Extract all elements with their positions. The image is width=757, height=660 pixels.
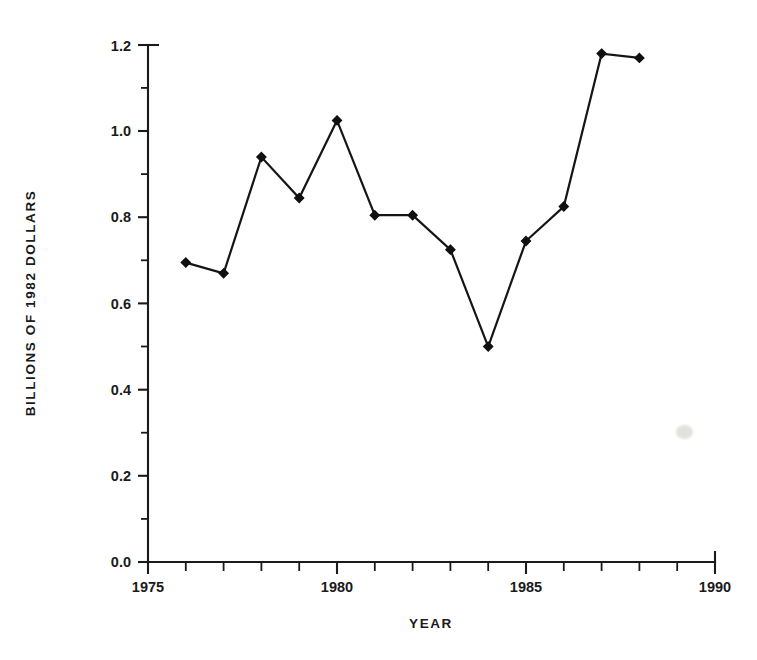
line-chart-canvas: 0.0 0.2 0.4 0.6 0.8 1.0 1.2 bbox=[0, 0, 757, 660]
y-tick-label: 0.8 bbox=[111, 209, 131, 225]
data-point bbox=[181, 258, 190, 267]
y-tick-label: 0.6 bbox=[111, 296, 131, 312]
x-tick-label: 1990 bbox=[699, 579, 731, 595]
data-point bbox=[597, 49, 606, 58]
y-tick-label: 1.0 bbox=[111, 123, 131, 139]
x-tick-label: 1980 bbox=[321, 579, 353, 595]
y-tick-label: 0.0 bbox=[111, 554, 131, 570]
data-point bbox=[370, 211, 379, 220]
y-tick-label: 0.4 bbox=[111, 382, 131, 398]
data-point bbox=[484, 342, 493, 351]
y-tick-label: 0.2 bbox=[111, 468, 131, 484]
y-axis-tick-labels: 0.0 0.2 0.4 0.6 0.8 1.0 1.2 bbox=[111, 38, 131, 570]
series-markers bbox=[181, 49, 644, 351]
y-axis-title: BILLIONS OF 1982 DOLLARS bbox=[23, 190, 38, 417]
x-axis-title: YEAR bbox=[409, 616, 453, 631]
data-series-group bbox=[181, 49, 644, 351]
y-axis-ticks bbox=[138, 45, 148, 562]
chart-figure: 0.0 0.2 0.4 0.6 0.8 1.0 1.2 bbox=[0, 0, 757, 660]
x-tick-label: 1975 bbox=[132, 579, 164, 595]
x-axis-tick-labels: 1975 1980 1985 1990 bbox=[132, 579, 731, 595]
data-point bbox=[635, 53, 644, 62]
x-tick-label: 1985 bbox=[510, 579, 542, 595]
axes-group bbox=[148, 45, 715, 562]
data-point bbox=[332, 116, 341, 125]
series-line bbox=[186, 54, 640, 347]
x-axis-ticks bbox=[148, 562, 715, 574]
y-tick-label: 1.2 bbox=[111, 38, 131, 54]
data-point bbox=[219, 269, 228, 278]
